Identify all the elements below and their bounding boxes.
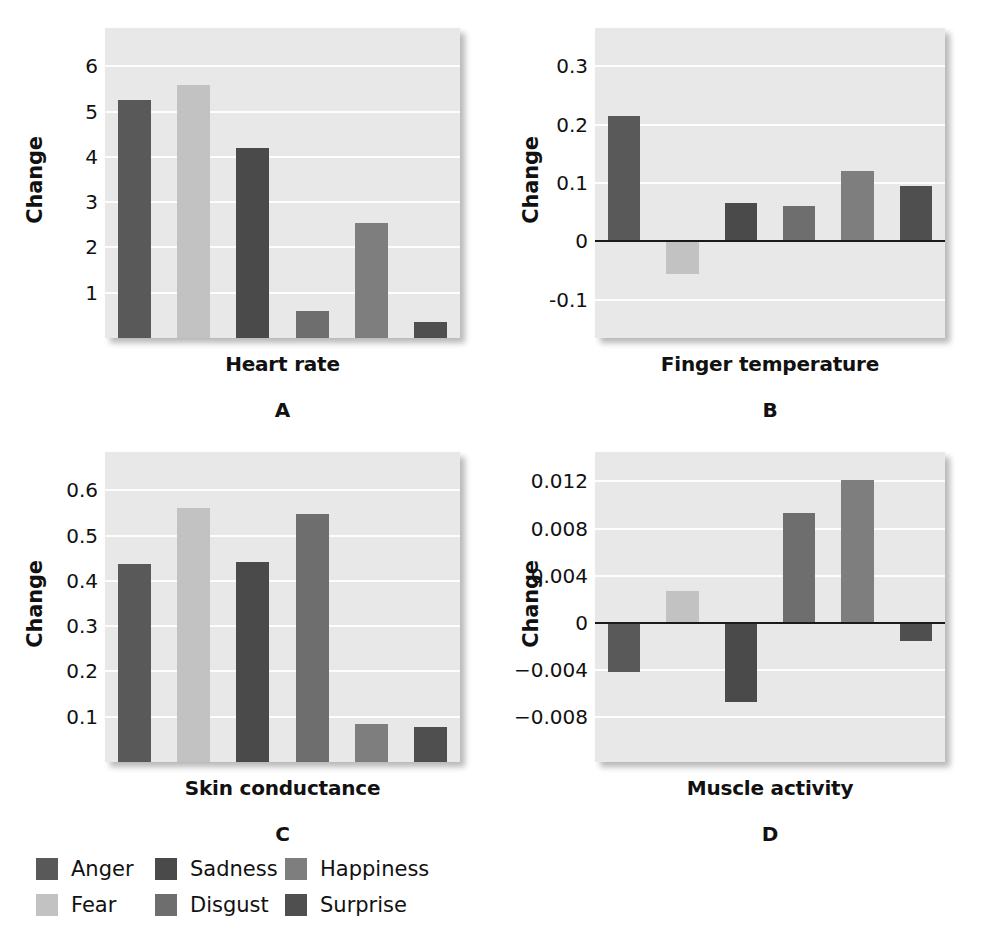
gridline [595,124,945,126]
y-tick-label: 0.2 [556,113,588,137]
panel-C-x-axis-title: Skin conductance [105,776,460,800]
legend-swatch-surprise [285,894,307,916]
y-tick-label: 0 [575,611,588,635]
bar-anger [608,623,641,673]
gridline [105,716,460,718]
panel-C-plot-area [105,452,460,762]
gridline [595,669,945,671]
y-tick-label: −0.008 [514,705,588,729]
bar-sadness [236,562,269,762]
gridline [105,489,460,491]
panel-D-y-tick-labels: 0.0120.0080.0040−0.004−0.008 [490,452,588,762]
y-tick-label: 0.5 [66,524,98,548]
panel-C: Change 0.10.20.30.40.50.6 Skin conductan… [0,424,490,864]
y-tick-label: 5 [85,100,98,124]
legend-swatch-happiness [285,858,307,880]
bar-anger [118,564,151,762]
bar-fear [177,508,210,762]
bar-sadness [725,623,758,702]
legend-label: Anger [71,857,134,881]
legend-swatch-fear [36,894,58,916]
y-tick-label: 0.1 [66,705,98,729]
panel-B-y-tick-labels: 0.30.20.10-0.1 [502,28,588,338]
legend-item-sadness[interactable]: Sadness [155,856,278,882]
legend-label: Sadness [190,857,278,881]
bar-disgust [783,513,816,623]
bar-happiness [355,724,388,762]
panel-A-caption: A [105,398,460,422]
panel-A-plot-area [105,28,460,338]
panel-D-x-axis-title: Muscle activity [595,776,945,800]
bar-happiness [841,480,874,623]
gridline [105,156,460,158]
legend-label: Disgust [190,893,269,917]
legend-item-happiness[interactable]: Happiness [285,856,429,882]
bar-surprise [414,727,447,762]
legend-item-surprise[interactable]: Surprise [285,892,407,918]
gridline [105,670,460,672]
bar-sadness [725,203,758,241]
gridline [595,575,945,577]
figure-legend: AngerSadnessHappinessFearDisgustSurprise [36,856,456,930]
panel-A-x-axis-title: Heart rate [105,352,460,376]
gridline [105,65,460,67]
legend-item-anger[interactable]: Anger [36,856,134,882]
legend-label: Fear [71,893,116,917]
y-tick-label: 4 [85,145,98,169]
emotion-physiology-figure: Change 123456 Heart rate A Change 0.30.2… [0,0,981,943]
y-tick-label: -0.1 [549,288,588,312]
gridline [105,111,460,113]
legend-item-disgust[interactable]: Disgust [155,892,269,918]
bar-disgust [296,311,329,338]
bar-fear [177,85,210,338]
bar-disgust [296,514,329,762]
panel-B-caption: B [595,398,945,422]
gridline [105,201,460,203]
y-tick-label: 3 [85,190,98,214]
legend-swatch-disgust [155,894,177,916]
y-tick-label: 0.1 [556,171,588,195]
y-tick-label: 0 [575,229,588,253]
panel-B-plot-area [595,28,945,338]
legend-item-fear[interactable]: Fear [36,892,116,918]
y-tick-label: 0.2 [66,659,98,683]
zero-line [595,240,945,242]
zero-line [595,622,945,624]
gridline [595,480,945,482]
bar-disgust [783,206,816,241]
legend-swatch-sadness [155,858,177,880]
gridline [105,580,460,582]
bar-anger [118,100,151,338]
gridline [105,246,460,248]
panel-D-caption: D [595,822,945,846]
gridline [105,292,460,294]
gridline [595,182,945,184]
y-tick-label: 0.012 [531,469,588,493]
panel-A: Change 123456 Heart rate A [0,0,490,440]
bar-surprise [414,322,447,338]
y-tick-label: 0.008 [531,517,588,541]
y-tick-label: 0.4 [66,569,98,593]
y-tick-label: 2 [85,235,98,259]
panel-C-y-tick-labels: 0.10.20.30.40.50.6 [12,452,98,762]
bar-anger [608,116,641,242]
bar-fear [666,591,699,623]
y-tick-label: 0.6 [66,478,98,502]
gridline [595,299,945,301]
y-tick-label: 1 [85,281,98,305]
legend-swatch-anger [36,858,58,880]
gridline [105,535,460,537]
panel-B-x-axis-title: Finger temperature [595,352,945,376]
bar-happiness [841,171,874,241]
gridline [595,716,945,718]
bar-fear [666,241,699,273]
y-tick-label: 0.3 [556,54,588,78]
gridline [595,65,945,67]
panel-D: Change 0.0120.0080.0040−0.004−0.008 Musc… [490,424,980,864]
panel-B: Change 0.30.20.10-0.1 Finger temperature… [490,0,980,440]
gridline [105,625,460,627]
bar-surprise [900,186,933,242]
panel-A-y-tick-labels: 123456 [30,28,98,338]
panel-C-caption: C [105,822,460,846]
bar-happiness [355,223,388,338]
